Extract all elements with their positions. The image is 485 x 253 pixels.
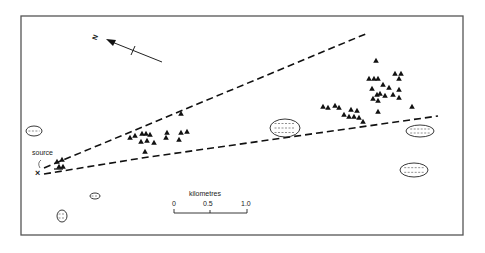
site-triangle-icon bbox=[396, 95, 402, 100]
site-triangle-icon bbox=[392, 71, 398, 76]
site-triangle-icon bbox=[351, 114, 357, 119]
lake-icon bbox=[400, 163, 428, 177]
site-triangle-icon bbox=[346, 114, 352, 119]
lake-icon bbox=[90, 193, 100, 199]
site-triangle-icon bbox=[382, 93, 388, 98]
site-triangle-icon bbox=[375, 76, 381, 81]
north-label: N bbox=[91, 34, 99, 41]
scale-bar: kilometres 0 0.5 1.0 bbox=[172, 190, 251, 213]
scale-title: kilometres bbox=[189, 190, 221, 197]
plume-boundary-lines bbox=[44, 33, 438, 174]
site-triangle-icon bbox=[127, 135, 133, 140]
site-triangle-icon bbox=[396, 76, 402, 81]
upper-plume-line bbox=[44, 33, 368, 168]
site-triangle-icon bbox=[390, 92, 396, 97]
scale-tick-0-5: 0.5 bbox=[203, 200, 213, 207]
site-triangle-icon bbox=[325, 105, 331, 110]
plume-map: N × source kilometres 0 0.5 1.0 bbox=[0, 0, 485, 253]
lake-icon bbox=[270, 119, 300, 137]
site-triangle-icon bbox=[164, 130, 170, 135]
source-x-icon: × bbox=[35, 168, 40, 178]
lake-icon bbox=[57, 210, 67, 222]
site-triangle-icon bbox=[143, 131, 149, 136]
scale-tick-1-0: 1.0 bbox=[241, 200, 251, 207]
site-triangle-icon bbox=[380, 82, 386, 87]
site-triangle-icon bbox=[398, 71, 404, 76]
site-triangle-icon bbox=[409, 104, 415, 109]
site-triangle-icon bbox=[375, 109, 381, 114]
site-triangle-icon bbox=[132, 133, 138, 138]
site-triangle-icon bbox=[341, 112, 347, 117]
site-triangle-icon bbox=[375, 98, 381, 103]
site-triangle-icon bbox=[396, 87, 402, 92]
site-triangle-icon bbox=[163, 135, 169, 140]
site-triangle-icon bbox=[151, 140, 157, 145]
site-triangle-icon bbox=[386, 85, 392, 90]
site-triangle-icon bbox=[142, 149, 148, 154]
site-triangle-icon bbox=[332, 103, 338, 108]
site-triangle-icon bbox=[369, 86, 375, 91]
site-triangle-icon bbox=[373, 58, 379, 63]
lake-icon bbox=[26, 126, 42, 136]
site-triangle-icon bbox=[354, 108, 360, 113]
scale-tick-0: 0 bbox=[172, 200, 176, 207]
lower-plume-line bbox=[44, 116, 438, 174]
site-triangles bbox=[54, 58, 415, 169]
lake-icon bbox=[406, 125, 434, 137]
site-triangle-icon bbox=[366, 76, 372, 81]
site-triangle-icon bbox=[320, 104, 326, 109]
north-arrow-icon: N bbox=[91, 34, 162, 62]
site-triangle-icon bbox=[176, 137, 182, 142]
site-triangle-icon bbox=[178, 130, 184, 135]
site-triangle-icon bbox=[60, 164, 66, 169]
lakes bbox=[26, 119, 434, 222]
site-triangle-icon bbox=[147, 132, 153, 137]
site-triangle-icon bbox=[184, 129, 190, 134]
site-triangle-icon bbox=[348, 107, 354, 112]
site-triangle-icon bbox=[144, 138, 150, 143]
site-triangle-icon bbox=[356, 115, 362, 120]
site-triangle-icon bbox=[138, 139, 144, 144]
source-label: source bbox=[32, 149, 53, 156]
site-triangle-icon bbox=[59, 157, 65, 162]
